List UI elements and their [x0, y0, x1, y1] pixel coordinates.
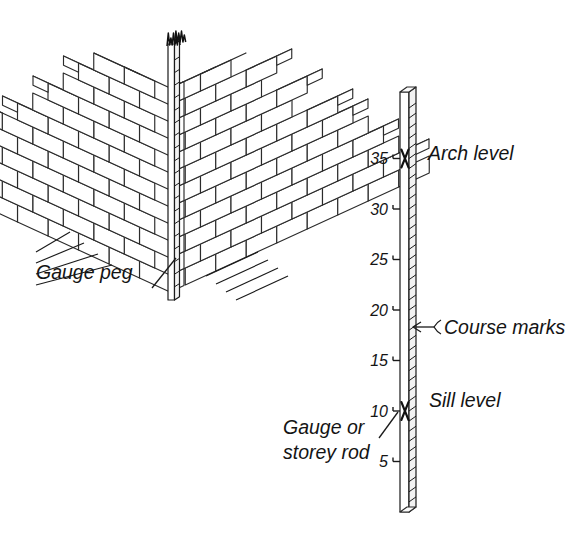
- ground-line-left: [36, 243, 84, 263]
- label-arch-level: Arch level: [427, 142, 514, 164]
- technical-illustration: 3530252015105 Gauge peg Arch level Cours…: [0, 0, 588, 542]
- brickwork-quoin: [0, 31, 429, 300]
- rod-tick-label-15: 15: [370, 352, 388, 369]
- rod-tick-label-10: 10: [370, 403, 388, 420]
- label-gauge-rod-line2: storey rod: [283, 441, 371, 463]
- figure-root: 3530252015105 Gauge peg Arch level Cours…: [0, 0, 588, 542]
- ground-line-right: [226, 268, 278, 292]
- brick-step-end: [307, 69, 322, 85]
- rod-tick-label-35: 35: [370, 150, 388, 167]
- brick-step-end: [338, 89, 353, 105]
- rod-tick-label-5: 5: [379, 453, 388, 470]
- brick-top-face: [0, 92, 2, 113]
- brick-step-end: [277, 49, 292, 65]
- brick-step-end: [33, 76, 48, 92]
- brick-step-end: [353, 99, 368, 115]
- brick-step-end: [384, 119, 399, 135]
- label-sill-level: Sill level: [429, 389, 501, 411]
- label-course-marks: Course marks: [444, 316, 566, 338]
- label-gauge-rod-line1: Gauge or: [283, 416, 366, 438]
- course-marks-arrow: [413, 320, 441, 334]
- rod-tick-label-30: 30: [370, 201, 388, 218]
- rod-tick-label-20: 20: [369, 302, 388, 319]
- label-gauge-peg: Gauge peg: [36, 261, 133, 283]
- brick-step-end: [3, 96, 18, 112]
- rod-tick-label-25: 25: [369, 251, 388, 268]
- ground-line-right: [236, 276, 288, 300]
- brick-face: [0, 99, 2, 130]
- brick-step-end: [64, 56, 79, 72]
